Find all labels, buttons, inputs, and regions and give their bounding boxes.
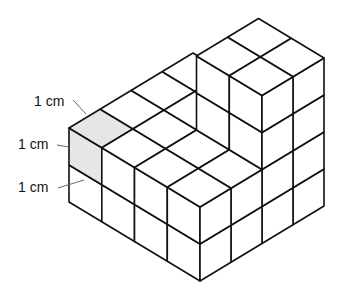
label-top-edge: 1 cm bbox=[34, 93, 86, 114]
leader-line bbox=[57, 145, 69, 147]
label-1cm-bottom: 1 cm bbox=[18, 179, 48, 195]
label-1cm-top: 1 cm bbox=[34, 93, 64, 109]
cube-solid-diagram: 1 cm 1 cm 1 cm bbox=[0, 0, 344, 301]
label-upper-height: 1 cm bbox=[18, 136, 69, 152]
unit-cubes bbox=[69, 19, 324, 282]
leader-line bbox=[73, 100, 86, 114]
label-1cm-middle: 1 cm bbox=[18, 136, 48, 152]
